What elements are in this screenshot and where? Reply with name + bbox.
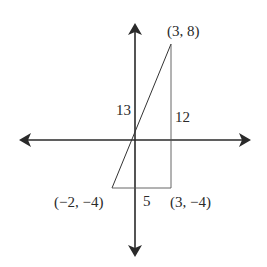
vertex-label-bottom-right: (3, −4) xyxy=(170,194,211,211)
hypotenuse-length-label: 13 xyxy=(116,102,131,118)
vertex-label-top: (3, 8) xyxy=(167,23,200,40)
horizontal-leg-length-label: 5 xyxy=(143,193,151,209)
coordinate-diagram: (3, 8) (3, −4) (−2, −4) 13 12 5 xyxy=(0,0,267,267)
vertical-leg-length-label: 12 xyxy=(175,109,190,125)
vertex-label-bottom-left: (−2, −4) xyxy=(54,194,103,211)
